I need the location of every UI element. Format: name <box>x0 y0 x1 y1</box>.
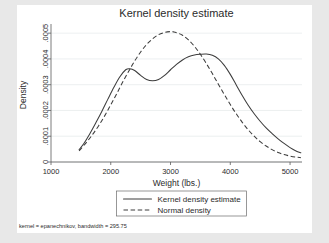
chart-note: kernel = epanechnikov, bandwidth = 295.7… <box>19 223 127 229</box>
y-tick-label-5: .0005 <box>41 24 50 43</box>
kernel-density-chart: Kernel density estimate0.0001.0002.0003.… <box>17 5 312 233</box>
legend-label-0: Kernel density estimate <box>158 195 242 204</box>
figure-canvas: Kernel density estimate0.0001.0002.0003.… <box>0 0 329 243</box>
plot-region: Kernel density estimate0.0001.0002.0003.… <box>17 5 312 233</box>
y-tick-label-1: .0001 <box>41 127 50 146</box>
x-axis-title: Weight (lbs.) <box>153 178 201 188</box>
x-tick-label-3: 4000 <box>222 167 239 176</box>
y-tick-label-0: 0 <box>41 160 50 164</box>
chart-title: Kernel density estimate <box>119 7 233 19</box>
x-tick-label-1: 2000 <box>102 167 119 176</box>
x-tick-label-0: 1000 <box>43 167 60 176</box>
series-curve-0 <box>79 54 301 153</box>
legend-label-1: Normal density <box>158 206 211 215</box>
x-tick-label-4: 5000 <box>282 167 299 176</box>
y-tick-label-4: .0004 <box>41 50 50 69</box>
series-curve-1 <box>79 32 301 158</box>
y-axis-title: Density <box>18 80 28 109</box>
y-tick-label-2: .0002 <box>41 101 50 120</box>
y-tick-label-3: .0003 <box>41 75 50 94</box>
x-tick-label-2: 3000 <box>162 167 179 176</box>
